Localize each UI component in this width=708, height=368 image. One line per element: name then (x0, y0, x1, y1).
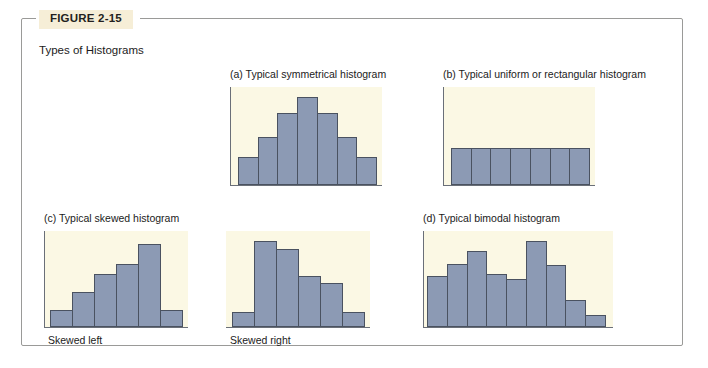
histogram-bar (298, 276, 321, 326)
histogram-bar (160, 310, 183, 326)
bars-b (443, 87, 595, 185)
histogram-bar (356, 157, 377, 185)
histogram-bar (116, 264, 139, 327)
histogram-bar (546, 265, 567, 326)
bars-c-left (44, 231, 188, 327)
axis-x-c-left (44, 327, 188, 328)
histogram-bar (427, 276, 448, 326)
histogram-bar (585, 315, 606, 327)
axis-x-c-right (226, 327, 370, 328)
histogram-bar (550, 148, 571, 185)
sublabel-skewed-left: Skewed left (48, 334, 102, 346)
histogram-bar (238, 157, 259, 185)
bars-a (230, 87, 382, 185)
plot-c-skewed-left (44, 231, 188, 328)
histogram-bar (297, 97, 318, 184)
histogram-bar (451, 148, 472, 185)
histogram-bar (510, 148, 531, 185)
histogram-bar (320, 283, 343, 326)
histogram-bar (486, 274, 507, 326)
plot-a-symmetrical (230, 87, 382, 186)
sublabel-skewed-right: Skewed right (230, 334, 291, 346)
histogram-bar (467, 251, 488, 327)
histogram-bar (94, 274, 117, 326)
axis-x-d (423, 327, 613, 328)
histogram-bar (277, 113, 298, 185)
panel-b-uniform: (b) Typical uniform or rectangular histo… (443, 68, 673, 188)
panel-d-title: (d) Typical bimodal histogram (423, 212, 560, 224)
histogram-bar (506, 279, 527, 327)
panel-a-title: (a) Typical symmetrical histogram (230, 68, 386, 80)
histogram-bar (72, 292, 95, 326)
bars-c-right (226, 231, 370, 327)
plot-c-skewed-right (226, 231, 370, 328)
plot-b-uniform (443, 87, 595, 186)
bars-d (423, 231, 613, 327)
histogram-bar (565, 300, 586, 327)
histogram-bar (490, 148, 511, 185)
panel-c-skewed: (c) Typical skewed histogram Skewed left… (44, 212, 374, 342)
figure-caption: Types of Histograms (39, 44, 144, 56)
plot-d-bimodal (423, 231, 613, 328)
histogram-bar (342, 312, 365, 326)
histogram-bar (276, 249, 299, 326)
histogram-bar (337, 137, 358, 185)
histogram-bar (471, 148, 492, 185)
figure-number-tag: FIGURE 2-15 (39, 10, 133, 29)
panel-b-title: (b) Typical uniform or rectangular histo… (443, 68, 646, 80)
panel-c-title: (c) Typical skewed histogram (44, 212, 179, 224)
histogram-bar (530, 148, 551, 185)
histogram-bar (317, 113, 338, 185)
histogram-bar (258, 137, 279, 185)
panel-a-symmetrical: (a) Typical symmetrical histogram (230, 68, 440, 188)
axis-x-a (230, 185, 382, 186)
histogram-bar (526, 241, 547, 327)
histogram-bar (50, 310, 73, 326)
histogram-bar (232, 312, 255, 326)
panel-d-bimodal: (d) Typical bimodal histogram (423, 212, 673, 342)
histogram-bar (569, 148, 590, 185)
histogram-bar (254, 241, 277, 327)
histogram-bar (447, 264, 468, 327)
axis-x-b (443, 185, 595, 186)
figure-root: FIGURE 2-15 Types of Histograms (a) Typi… (0, 0, 708, 368)
histogram-bar (138, 244, 161, 327)
